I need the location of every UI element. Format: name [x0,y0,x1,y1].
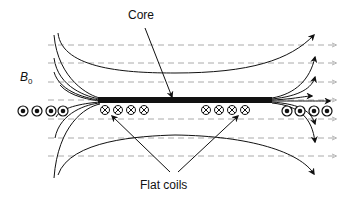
field-label: B0 [20,70,32,86]
left-current-out-symbols [18,106,68,116]
core-label: Core [128,8,154,22]
field-symbol: B [20,70,28,84]
flux-diagram: Core B0 Flat coils [0,0,349,201]
field-subscript: 0 [28,77,32,86]
upper-field-lines [54,33,330,101]
coils-label: Flat coils [140,178,187,192]
right-current-out-symbols [282,106,332,116]
coil-current-in-symbols [101,106,250,115]
core-bar [98,97,272,103]
diagram-canvas [0,0,349,201]
